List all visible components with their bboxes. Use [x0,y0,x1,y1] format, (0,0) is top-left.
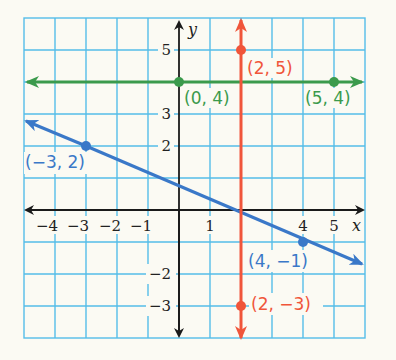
x-tick-label: 5 [329,217,339,235]
point-4-m1 [298,237,308,247]
point-5-4 [329,77,339,87]
x-tick-label: −1 [130,217,152,235]
x-tick-label: 1 [205,217,215,235]
point-label-5-4: (5, 4) [305,88,351,108]
axes [26,22,363,336]
point-2-5 [236,45,246,55]
x-axis-label: x [352,216,361,235]
graph-svg: −4 −3 −2 −1 1 4 5 x 5 3 2 −2 −3 y [0,0,396,360]
y-tick-label: 5 [161,41,171,59]
x-tick-label: 4 [298,217,308,235]
point-label-4-m1: (4, −1) [248,251,308,271]
point-label-0-4: (0, 4) [184,88,230,108]
point-label-2-m3: (2, −3) [251,294,311,314]
point-2-m3 [236,301,246,311]
y-axis-label: y [187,20,198,39]
point-label-2-5: (2, 5) [247,58,293,78]
x-tick-label: −2 [99,217,121,235]
point-m3-2 [81,141,91,151]
grid [24,18,365,338]
series-green-horizontal-line [27,77,362,87]
point-label-m3-2: (−3, 2) [25,152,85,172]
series-red-vertical-line [236,20,246,338]
point-0-4 [174,77,184,87]
y-tick-label: 3 [161,105,171,123]
x-tick-label: −3 [67,217,89,235]
y-tick-label: 2 [161,137,171,155]
x-tick-label: −4 [36,217,58,235]
y-tick-label: −3 [149,297,171,315]
y-tick-label: −2 [149,265,171,283]
coordinate-plane-figure: −4 −3 −2 −1 1 4 5 x 5 3 2 −2 −3 y [0,0,396,360]
